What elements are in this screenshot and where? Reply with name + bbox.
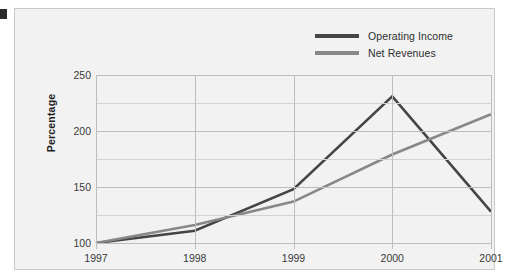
- gridline-x-1997: [96, 75, 97, 249]
- y-axis-tick-labels: 100150200250: [53, 75, 91, 243]
- legend-label-net-revenues: Net Revenues: [368, 47, 436, 59]
- x-tick-label-1998: 1998: [183, 252, 206, 264]
- x-tick-label-1999: 1999: [282, 252, 305, 264]
- y-tick-label-250: 250: [57, 69, 91, 81]
- legend-label-operating-income: Operating Income: [368, 30, 453, 42]
- x-tick-label-2001: 2001: [479, 252, 502, 264]
- legend-swatch-operating-income: [315, 34, 359, 38]
- chart-figure: Operating Income Net Revenues 1001502002…: [0, 0, 509, 277]
- gridline-x-2001: [491, 75, 492, 249]
- legend-item-operating-income: Operating Income: [315, 27, 505, 44]
- y-tick-label-100: 100: [57, 237, 91, 249]
- y-tick-label-150: 150: [57, 181, 91, 193]
- gridline-x-1998: [195, 75, 196, 249]
- x-tick-label-2000: 2000: [381, 252, 404, 264]
- x-axis-tick-labels: 19971998199920002001: [96, 252, 491, 268]
- chart-legend: Operating Income Net Revenues: [315, 27, 505, 61]
- gridline-x-2000: [392, 75, 393, 249]
- plot-area: [96, 75, 491, 243]
- legend-swatch-net-revenues: [315, 51, 359, 55]
- y-axis-title: Percentage: [45, 83, 57, 163]
- gridline-x-1999: [294, 75, 295, 249]
- y-tick-label-200: 200: [57, 125, 91, 137]
- x-tick-label-1997: 1997: [84, 252, 107, 264]
- edge-marker: [0, 9, 7, 19]
- chart-panel: Operating Income Net Revenues 1001502002…: [14, 8, 495, 270]
- legend-item-net-revenues: Net Revenues: [315, 44, 505, 61]
